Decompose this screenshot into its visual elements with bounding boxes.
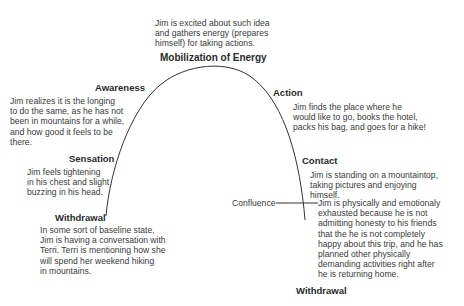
withdrawal-end-line-6: planned other physically [318, 249, 443, 259]
contact-heading: Contact [302, 155, 337, 166]
awareness-description: Jim realizes it is the longing to do the… [10, 96, 124, 147]
withdrawal-start-line-3: Terri. Terri is mentioning how she [40, 245, 166, 255]
withdrawal-start-line-5: in mountains. [40, 266, 166, 276]
withdrawal-start-description: In some sort of baseline state, Jim is h… [40, 225, 166, 276]
confluence-label: Confluence [232, 198, 275, 208]
withdrawal-end-line-1: Jim is physically and emotionaly [318, 198, 443, 208]
action-description: Jim finds the place where he would like … [293, 102, 426, 133]
awareness-line-1: Jim realizes it is the longing [10, 96, 124, 106]
sensation-heading: Sensation [69, 153, 114, 164]
sensation-line-2: in his chest and slight [27, 177, 109, 187]
mobilization-line-3: himself) for taking actions. [155, 38, 270, 48]
withdrawal-start-heading: Withdrawal [55, 212, 106, 223]
mobilization-line-1: Jim is excited about such idea [155, 18, 270, 28]
awareness-line-5: there. [10, 137, 124, 147]
contact-line-2: taking pictures and enjoying [310, 180, 438, 190]
action-line-3: packs his bag, and goes for a hike! [293, 122, 426, 132]
contact-line-1: Jim is standing on a mountaintop, [310, 170, 438, 180]
action-line-1: Jim finds the place where he [293, 102, 426, 112]
mobilization-heading: Mobilization of Energy [160, 52, 267, 63]
awareness-line-3: been in mountains for a while, [10, 116, 124, 126]
sensation-description: Jim feels tightening in his chest and sl… [27, 167, 109, 198]
withdrawal-end-line-4: that the he is not completely [318, 229, 443, 239]
withdrawal-end-line-3: admitting honesty to his friends [318, 218, 443, 228]
withdrawal-start-line-2: Jim is having a conversation with [40, 235, 166, 245]
mobilization-description: Jim is excited about such idea and gathe… [155, 18, 270, 49]
sensation-line-1: Jim feels tightening [27, 167, 109, 177]
contact-description: Jim is standing on a mountaintop, taking… [310, 170, 438, 201]
withdrawal-end-line-5: happy about this trip, and he has [318, 239, 443, 249]
awareness-line-4: and how good it feels to be [10, 127, 124, 137]
sensation-line-3: buzzing in his head. [27, 187, 109, 197]
awareness-line-2: to do the same, as he has not [10, 106, 124, 116]
withdrawal-end-line-8: he is returning home. [318, 269, 443, 279]
mobilization-line-2: and gathers energy (prepares [155, 28, 270, 38]
withdrawal-end-description: Jim is physically and emotionaly exhaust… [318, 198, 443, 280]
action-line-2: would like to go, books the hotel, [293, 112, 426, 122]
withdrawal-end-heading: Withdrawal [296, 285, 347, 296]
withdrawal-start-line-1: In some sort of baseline state, [40, 225, 166, 235]
withdrawal-end-line-2: exhausted because he is not [318, 208, 443, 218]
action-heading: Action [273, 87, 303, 98]
withdrawal-end-line-7: demanding activities right after [318, 259, 443, 269]
awareness-heading: Awareness [95, 82, 145, 93]
withdrawal-start-line-4: will spend her weekend hiking [40, 256, 166, 266]
